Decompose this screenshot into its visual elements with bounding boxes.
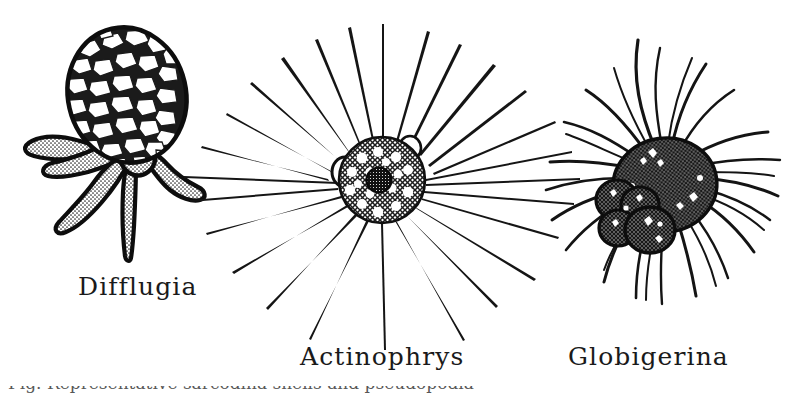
plate-drawing — [0, 0, 808, 393]
specimen-label-globigerina: Globigerina — [568, 342, 729, 371]
specimen-actinophrys — [184, 24, 580, 350]
specimen-label-actinophrys: Actinophrys — [300, 342, 464, 371]
clipped-caption-text: Fig. Representative sarcodina shells and… — [8, 386, 474, 393]
specimen-difflugia — [25, 15, 205, 260]
specimen-globigerina — [546, 40, 780, 304]
illustration-plate: Difflugia Actinophrys Globigerina Fig. R… — [0, 0, 808, 393]
actinophrys-body — [339, 137, 425, 223]
clipped-caption-strip: Fig. Representative sarcodina shells and… — [0, 386, 808, 393]
specimen-label-difflugia: Difflugia — [78, 272, 197, 301]
actinophrys-nucleus — [367, 168, 392, 193]
